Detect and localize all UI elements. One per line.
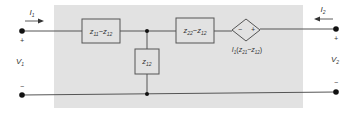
current-label-i1: I1 bbox=[29, 8, 34, 18]
arrowhead-right-icon bbox=[38, 19, 44, 24]
terminal-port1-plus bbox=[19, 28, 25, 34]
terminal-port2-plus bbox=[333, 26, 339, 32]
terminal-port2-minus bbox=[333, 89, 339, 95]
voltage-label-v2: V2 bbox=[331, 55, 339, 65]
source-minus: − bbox=[238, 26, 242, 33]
terminal-port1-minus bbox=[19, 92, 25, 98]
port1-minus-sign: − bbox=[20, 83, 24, 90]
source-plus: + bbox=[251, 26, 255, 33]
arrowhead-left-icon bbox=[314, 17, 320, 22]
voltage-label-v1: V1 bbox=[16, 57, 24, 67]
junction-node-bottom bbox=[145, 92, 149, 96]
port2-minus-sign: − bbox=[334, 79, 338, 86]
port2-plus-sign: + bbox=[334, 35, 338, 42]
port1-plus-sign: + bbox=[20, 37, 24, 44]
junction-node-top bbox=[145, 29, 149, 33]
current-label-i2: I2 bbox=[320, 5, 325, 15]
circuit-diagram: z11−z12 z12 z22−z12 − + I1(z21−z12) I1 I… bbox=[0, 0, 357, 114]
